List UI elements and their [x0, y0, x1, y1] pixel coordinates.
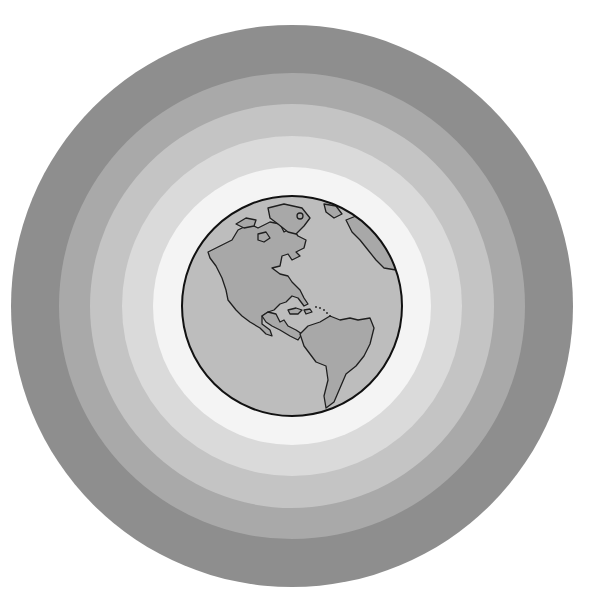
earth-globe-icon	[180, 194, 404, 418]
atmosphere-illustration	[0, 0, 593, 607]
